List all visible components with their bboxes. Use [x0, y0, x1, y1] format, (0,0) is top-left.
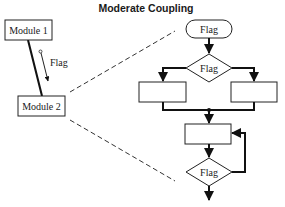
structure-chart: Module 1 Module 2 Flag: [5, 20, 68, 116]
decision-bottom-label: Flag: [200, 167, 218, 178]
coupling-flag-label: Flag: [50, 57, 68, 68]
flag-coupling-arrow-icon: [39, 50, 48, 81]
decision-top-label: Flag: [200, 63, 218, 74]
module-2-label: Module 2: [22, 101, 61, 112]
module-connector: [28, 40, 42, 96]
branch-left-arrow: [163, 68, 186, 81]
process-middle-box: [185, 124, 231, 144]
terminal-label: Flag: [200, 24, 218, 35]
diagram-title: Moderate Coupling: [98, 2, 193, 14]
process-right-box: [231, 82, 277, 102]
module-1-label: Module 1: [9, 25, 48, 36]
flowchart: Flag Flag Flag: [139, 20, 277, 200]
moderate-coupling-diagram: Moderate Coupling Module 1 Module 2 Flag…: [0, 0, 285, 207]
process-left-box: [139, 82, 186, 102]
branch-right-arrow: [232, 68, 254, 81]
loop-back-arrow: [232, 133, 245, 172]
expansion-line-bottom: [70, 120, 175, 181]
